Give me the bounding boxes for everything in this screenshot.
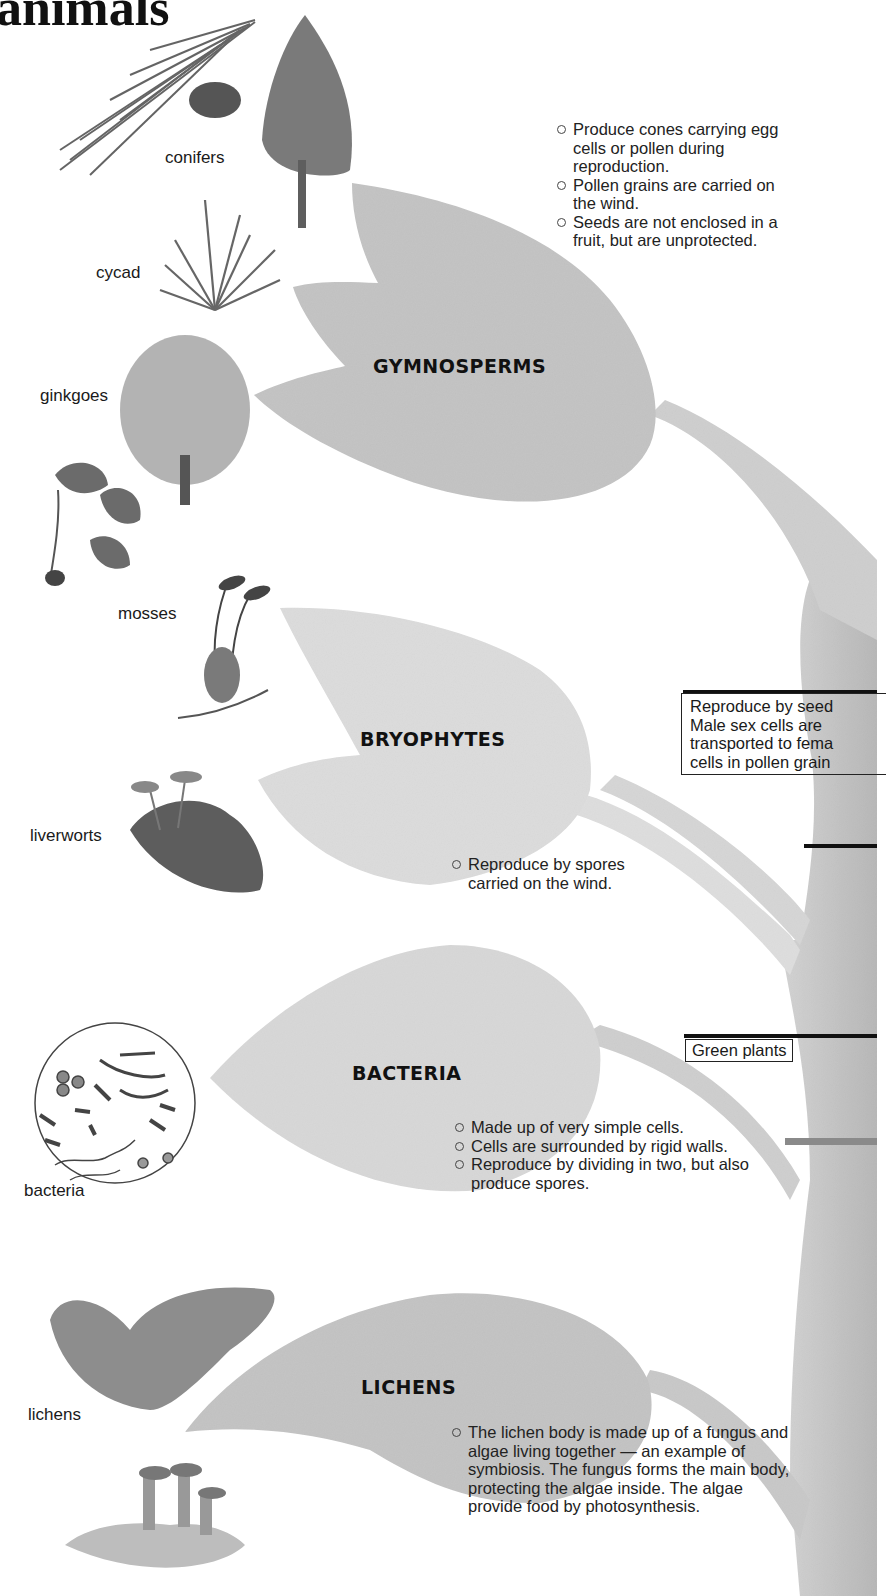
lichen-cup-illustration	[65, 1463, 245, 1568]
lichen-notes: The lichen body is made up of a fungus a…	[450, 1423, 795, 1516]
ginkgo-leaves-illustration	[45, 463, 141, 586]
note-item: The lichen body is made up of a fungus a…	[450, 1423, 795, 1516]
callout-line: transported to fema	[690, 734, 878, 753]
heading-bryophytes: BRYOPHYTES	[360, 728, 506, 750]
ginkgo-tree-illustration	[120, 335, 250, 505]
heading-bacteria: BACTERIA	[352, 1062, 461, 1084]
specimen-label-liverworts: liverworts	[30, 826, 102, 846]
note-item: Seeds are not enclosed in a fruit, but a…	[555, 213, 795, 250]
conifer-tree-illustration	[262, 15, 352, 228]
bacteria-microscope-illustration	[35, 1023, 195, 1183]
specimen-label-bacteria: bacteria	[24, 1181, 84, 1201]
specimen-label-lichens: lichens	[28, 1405, 81, 1425]
note-item: Reproduce by spores carried on the wind.	[450, 855, 660, 892]
liverwort-illustration	[130, 771, 263, 893]
moss-illustration	[178, 573, 272, 718]
note-item: Cells are surrounded by rigid walls.	[453, 1137, 793, 1156]
specimen-label-cycad: cycad	[96, 263, 140, 283]
callout-line: cells in pollen grain	[690, 753, 878, 772]
callout-line: Reproduce by seed	[690, 697, 878, 716]
cycad-illustration	[160, 200, 280, 310]
callout-line: Male sex cells are	[690, 716, 878, 735]
note-item: Pollen grains are carried on the wind.	[555, 176, 795, 213]
heading-gymnosperms: GYMNOSPERMS	[373, 355, 546, 377]
note-item: Reproduce by dividing in two, but also p…	[453, 1155, 793, 1192]
bacteria-notes: Made up of very simple cells. Cells are …	[453, 1118, 793, 1192]
seed-plants-callout: Reproduce by seed Male sex cells are tra…	[681, 693, 886, 775]
gymnosperm-notes: Produce cones carrying egg cells or poll…	[555, 120, 795, 250]
heading-lichens: LICHENS	[361, 1376, 456, 1398]
note-item: Made up of very simple cells.	[453, 1118, 793, 1137]
bryophyte-notes: Reproduce by spores carried on the wind.	[450, 855, 660, 892]
green-plants-bar	[684, 1034, 877, 1038]
specimen-label-mosses: mosses	[118, 604, 177, 624]
green-plants-label: Green plants	[685, 1039, 793, 1062]
bryophyte-marker	[804, 844, 877, 848]
gymnosperm-stem	[650, 400, 877, 640]
pine-cone-illustration	[189, 82, 241, 118]
specimen-label-ginkgoes: ginkgoes	[40, 386, 108, 406]
specimen-label-conifers: conifers	[165, 148, 225, 168]
note-item: Produce cones carrying egg cells or poll…	[555, 120, 795, 176]
cell-wall-pointer	[785, 1138, 877, 1145]
